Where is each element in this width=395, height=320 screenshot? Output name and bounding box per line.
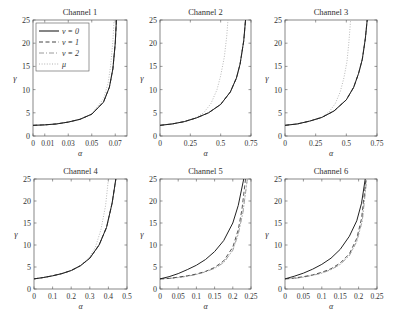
legend-entry-label: ν = 2 [62,49,79,58]
x-tick-label: 0.1 [317,292,327,301]
x-tick-label: 0.25 [370,292,383,301]
x-axis-label: α [78,149,83,158]
y-tick-label: 15 [274,219,282,228]
subplot-channel-4: Channel 4051015202500.10.20.30.40.5αγ [14,166,132,311]
x-tick-label: 0.25 [244,292,257,301]
x-tick-label: 0.2 [228,292,238,301]
subplot-title: Channel 3 [314,7,349,17]
y-axis-label: γ [14,229,18,239]
y-tick-label: 10 [274,86,282,95]
x-tick-label: 0.3 [85,292,95,301]
x-tick-label: 0.5 [342,139,352,148]
x-tick-label: 0.05 [172,292,185,301]
legend: ν = 0ν = 1ν = 2μ [36,23,89,71]
series-line [285,179,366,279]
x-tick-label: 0.25 [184,139,197,148]
series-line [285,20,367,125]
series-line [160,20,228,125]
x-tick-label: 0.4 [104,292,114,301]
y-tick-label: 0 [278,132,282,141]
x-tick-label: 0 [32,292,36,301]
x-tick-label: 0.2 [67,292,77,301]
y-tick-label: 20 [149,197,157,206]
series-line [285,179,367,279]
axes-frame [160,20,251,136]
x-tick-label: 0 [158,139,162,148]
x-tick-label: 0.5 [216,139,226,148]
series-line [160,20,246,125]
y-tick-label: 15 [149,62,157,71]
x-tick-label: 0.75 [370,139,383,148]
x-tick-label: 0.15 [208,292,221,301]
y-tick-label: 20 [274,197,282,206]
series-line [285,20,351,125]
y-tick-label: 25 [274,16,282,25]
series-line [160,179,247,279]
x-tick-label: 0 [31,139,35,148]
y-axis-label: γ [265,73,269,83]
y-tick-label: 10 [22,86,30,95]
y-tick-label: 15 [23,219,31,228]
y-tick-label: 20 [23,197,31,206]
x-tick-label: 0.07 [109,139,122,148]
y-tick-label: 5 [153,263,157,272]
series-line [160,179,246,279]
y-tick-label: 0 [278,285,282,294]
series-line [34,179,116,279]
subplot-title: Channel 6 [314,166,349,176]
x-tick-label: 0.01 [41,139,54,148]
x-tick-label: 0.1 [48,292,58,301]
y-tick-label: 15 [22,62,30,71]
y-tick-label: 5 [26,109,30,118]
y-tick-label: 15 [274,62,282,71]
subplot-title: Channel 5 [188,166,223,176]
legend-entry-label: ν = 0 [62,27,79,36]
x-tick-label: 0.03 [62,139,75,148]
y-axis-label: γ [13,73,17,83]
series-line [160,179,244,279]
x-tick-label: 0.2 [354,292,364,301]
subplot-channel-2: Channel 2051015202500.250.50.75αγ [140,7,257,158]
y-axis-label: γ [140,73,144,83]
series-line [285,20,367,125]
subplot-channel-6: Channel 6051015202500.050.10.150.20.25αγ [265,166,383,311]
y-tick-label: 25 [149,175,157,184]
y-tick-label: 5 [278,109,282,118]
y-axis-label: γ [140,229,144,239]
y-tick-label: 10 [149,241,157,250]
series-line [160,179,247,279]
y-tick-label: 15 [149,219,157,228]
x-axis-label: α [329,149,334,158]
y-tick-label: 25 [22,16,30,25]
y-tick-label: 10 [149,86,157,95]
x-tick-label: 0 [158,292,162,301]
y-tick-label: 5 [27,263,31,272]
y-tick-label: 10 [274,241,282,250]
legend-entry-label: μ [61,60,66,69]
subplot-channel-3: Channel 3051015202500.250.50.75αγ [265,7,383,158]
series-line [34,179,116,279]
x-axis-label: α [203,149,208,158]
series-line [285,179,367,279]
y-tick-label: 0 [26,132,30,141]
subplot-channel-5: Channel 5051015202500.050.10.150.20.25αγ [140,166,257,311]
y-tick-label: 5 [153,109,157,118]
y-tick-label: 25 [149,16,157,25]
y-tick-label: 25 [274,175,282,184]
y-tick-label: 5 [278,263,282,272]
y-tick-label: 10 [23,241,31,250]
axes-frame [285,20,377,136]
series-line [34,179,108,279]
figure: Channel 1051015202500.010.030.050.07αγ C… [0,0,395,320]
subplot-title: Channel 4 [63,166,98,176]
y-tick-label: 20 [22,39,30,48]
y-tick-label: 25 [23,175,31,184]
x-tick-label: 0 [283,292,287,301]
x-tick-label: 0.05 [85,139,98,148]
x-tick-label: 0.5 [122,292,132,301]
x-tick-label: 0.75 [244,139,257,148]
y-tick-label: 20 [274,39,282,48]
series-line [34,179,116,279]
subplot-title: Channel 1 [63,7,98,17]
x-axis-label: α [203,302,208,311]
